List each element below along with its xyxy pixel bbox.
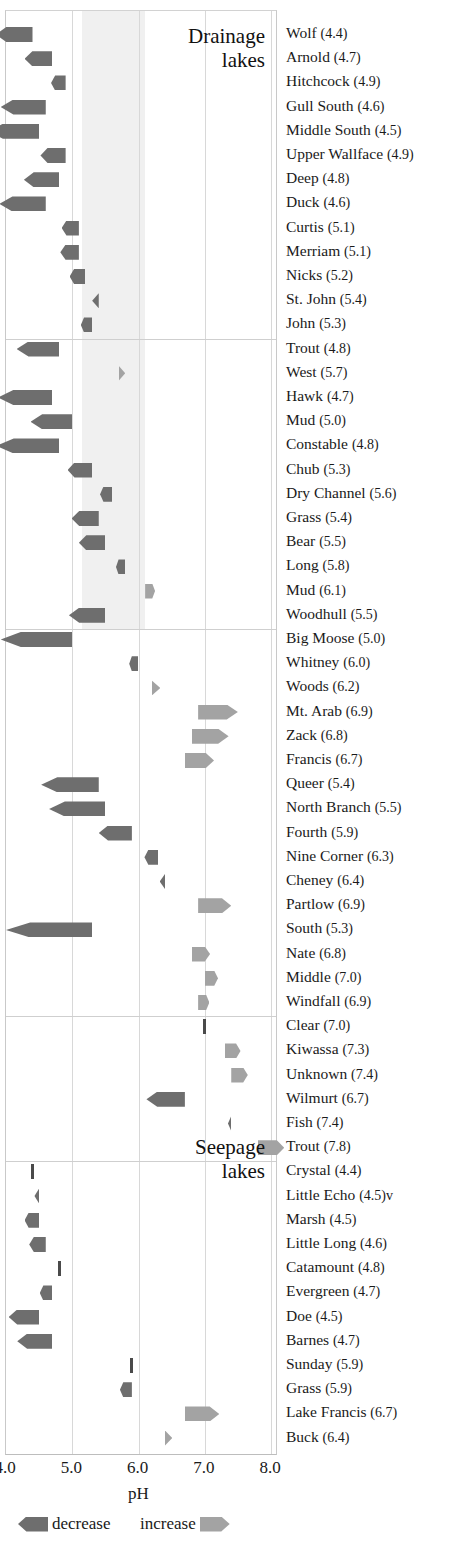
arrow-row	[6, 919, 276, 943]
lake-label: Nine Corner (6.3)	[286, 848, 394, 865]
lake-ph-value: (4.8)	[352, 437, 379, 452]
arrow-decrease	[34, 1189, 39, 1204]
lake-name: Arnold	[286, 48, 334, 65]
arrow-none	[203, 1019, 206, 1034]
arrow-increase	[185, 1406, 219, 1421]
x-axis-title: pH	[0, 1484, 277, 1504]
arrow-row	[6, 314, 276, 338]
arrow-row	[6, 823, 276, 847]
arrow-row	[6, 1113, 276, 1137]
arrow-row	[6, 145, 276, 169]
arrow-row	[6, 363, 276, 387]
lake-label: Gull South (4.6)	[286, 98, 384, 115]
arrow-decrease	[60, 245, 79, 260]
lake-label: Clear (7.0)	[286, 1017, 350, 1034]
lake-label: Little Long (4.6)	[286, 1235, 387, 1252]
lake-ph-value: (5.2)	[326, 268, 353, 283]
arrow-row	[6, 798, 276, 822]
lake-label: Buck (6.4)	[286, 1429, 349, 1446]
lake-name: Sunday	[286, 1355, 336, 1372]
arrow-row	[6, 97, 276, 121]
lake-ph-value: (4.9)	[354, 74, 381, 89]
arrow-row	[6, 1186, 276, 1210]
arrow-row	[6, 726, 276, 750]
lake-ph-value: (7.8)	[324, 1139, 351, 1154]
lake-label: South (5.3)	[286, 920, 353, 937]
lake-name: Constable	[286, 435, 352, 452]
lake-ph-value: (5.7)	[320, 365, 347, 380]
lake-label: Unknown (7.4)	[286, 1066, 378, 1083]
lake-name: Gull South	[286, 97, 357, 114]
lake-label: Windfall (6.9)	[286, 993, 371, 1010]
lake-name: Wolf	[286, 24, 320, 41]
arrow-none	[130, 1358, 133, 1373]
arrow-decrease	[25, 1213, 40, 1228]
arrow-decrease	[116, 559, 125, 574]
lake-name: Duck	[286, 193, 323, 210]
arrow-row	[6, 1065, 276, 1089]
lake-label: Long (5.8)	[286, 557, 349, 574]
arrow-row	[6, 460, 276, 484]
lake-label: Middle (7.0)	[286, 969, 361, 986]
lake-name: Fourth	[286, 823, 331, 840]
arrow-row	[6, 1234, 276, 1258]
x-tick-8.0: 8.0	[259, 1458, 280, 1478]
lake-label: Woodhull (5.5)	[286, 606, 377, 623]
lake-name: Francis	[286, 750, 336, 767]
lake-ph-value: (6.7)	[336, 752, 363, 767]
arrow-row	[6, 1210, 276, 1234]
lake-name: Queer	[286, 774, 328, 791]
lake-label: Big Moose (5.0)	[286, 630, 385, 647]
arrow-decrease	[70, 269, 86, 284]
arrow-decrease	[160, 874, 165, 889]
lake-name: Little Long	[286, 1234, 360, 1251]
arrow-none	[58, 1261, 61, 1276]
lake-label: Barnes (4.7)	[286, 1332, 360, 1349]
arrow-increase	[185, 753, 214, 768]
arrow-increase	[225, 1043, 241, 1058]
lake-name: Little Echo	[286, 1186, 359, 1203]
arrow-row	[6, 193, 276, 217]
lake-ph-value: (7.0)	[323, 1018, 350, 1033]
plot-area	[5, 10, 277, 1455]
arrow-increase	[198, 898, 231, 913]
lake-name: Mud	[286, 581, 319, 598]
arrow-row	[6, 944, 276, 968]
arrow-row	[6, 121, 276, 145]
lake-name: Merriam	[286, 242, 344, 259]
group-title-drainage-line1: Drainage	[60, 24, 265, 48]
arrow-increase	[198, 995, 209, 1010]
arrow-decrease	[79, 535, 106, 550]
lake-ph-value: (4.5)	[375, 123, 402, 138]
arrow-row	[6, 750, 276, 774]
arrow-row	[6, 218, 276, 242]
lake-label: Kiwassa (7.3)	[286, 1041, 369, 1058]
decrease-arrow-icon	[18, 1517, 48, 1532]
lake-label: Nicks (5.2)	[286, 267, 353, 284]
lake-label: Sunday (5.9)	[286, 1356, 363, 1373]
lake-ph-value: (5.9)	[336, 1357, 363, 1372]
lake-name: Trout	[286, 1137, 324, 1154]
lake-label: Zack (6.8)	[286, 727, 348, 744]
lake-name: Partlow	[286, 895, 338, 912]
x-tick-5.0: 5.0	[61, 1458, 82, 1478]
lake-ph-value: (7.3)	[342, 1042, 369, 1057]
lake-name: Middle South	[286, 121, 375, 138]
lake-label: Curtis (5.1)	[286, 219, 355, 236]
lake-name: John	[286, 314, 319, 331]
arrow-increase	[165, 1431, 172, 1446]
lake-name: Marsh	[286, 1210, 329, 1227]
lake-name: Hawk	[286, 387, 327, 404]
lake-name: Evergreen	[286, 1282, 353, 1299]
lake-ph-value: (5.4)	[328, 776, 355, 791]
lake-name: Grass	[286, 508, 325, 525]
arrow-row	[6, 1040, 276, 1064]
lake-ph-value: (5.8)	[323, 558, 350, 573]
arrow-increase	[192, 947, 211, 962]
arrow-row	[6, 1403, 276, 1427]
lake-ph-value: (5.5)	[351, 607, 378, 622]
arrow-row	[6, 653, 276, 677]
lake-label: Wolf (4.4)	[286, 25, 347, 42]
arrow-decrease	[100, 487, 112, 502]
arrow-row	[6, 556, 276, 580]
